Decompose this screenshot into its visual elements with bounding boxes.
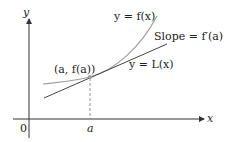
x-axis-label: x bbox=[207, 113, 213, 124]
origin-label: 0 bbox=[20, 123, 27, 134]
slope-label: Slope = f′(a) bbox=[154, 31, 223, 42]
tick-label-a: a bbox=[87, 123, 94, 134]
point-label: (a, f(a)) bbox=[54, 64, 95, 75]
tangent-line-label: y = L(x) bbox=[129, 59, 174, 70]
linear-approximation-diagram: y x 0 a y = f(x) Slope = f′(a) y = L(x) … bbox=[0, 0, 231, 142]
y-axis-label: y bbox=[23, 7, 29, 18]
curve-label: y = f(x) bbox=[114, 11, 155, 22]
